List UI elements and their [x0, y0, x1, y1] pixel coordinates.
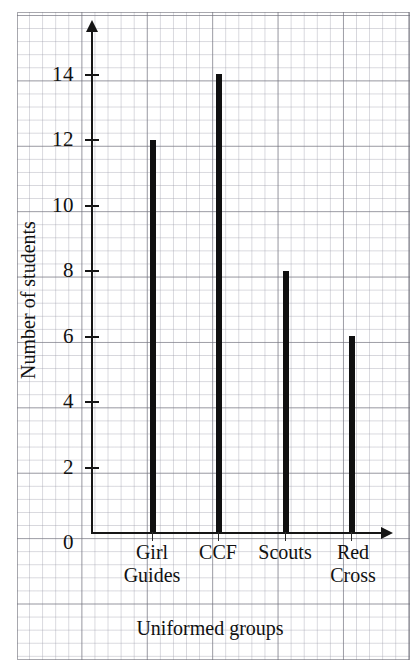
x-axis-line	[91, 532, 383, 534]
x-axis-title: Uniformed groups	[70, 617, 350, 639]
x-tick-mark	[285, 532, 286, 541]
bar-ccf	[216, 74, 222, 532]
x-category-label-line2: Cross	[312, 564, 394, 587]
x-category-label-line1: Scouts	[258, 541, 311, 563]
y-tick-label-2: 2	[30, 457, 74, 478]
x-tick-mark	[218, 532, 219, 541]
x-category-label-line2: Guides	[107, 564, 197, 587]
y-tick-mark	[85, 74, 99, 76]
y-tick-mark	[85, 205, 99, 207]
y-axis-line	[91, 30, 93, 534]
x-category-label-red-cross: Red Cross	[312, 541, 394, 587]
x-category-label-line1: Red	[337, 541, 369, 563]
y-tick-mark	[85, 467, 99, 469]
y-tick-label-14: 14	[30, 64, 74, 85]
bar-scouts	[283, 271, 289, 532]
y-tick-mark	[85, 401, 99, 403]
bar-red-cross	[349, 336, 355, 532]
y-tick-mark	[85, 336, 99, 338]
x-tick-mark	[351, 532, 352, 541]
y-tick-mark	[85, 139, 99, 141]
y-axis-title: Number of students	[18, 190, 38, 410]
bar-girl-guides	[150, 140, 156, 532]
y-tick-label-0: 0	[30, 532, 74, 553]
x-tick-mark	[152, 532, 153, 541]
x-category-label-line1: Girl	[136, 541, 168, 563]
y-tick-mark	[85, 270, 99, 272]
bar-chart-figure: 14 12 10 8 6 4 2 0 Girl Guides CCF Scout…	[0, 0, 415, 668]
x-category-label-line1: CCF	[199, 541, 237, 563]
y-tick-label-12: 12	[30, 129, 74, 150]
plot-area: 14 12 10 8 6 4 2 0 Girl Guides CCF Scout…	[0, 0, 415, 668]
x-axis-arrow-icon	[381, 527, 393, 539]
y-axis-arrow-icon	[86, 20, 98, 32]
